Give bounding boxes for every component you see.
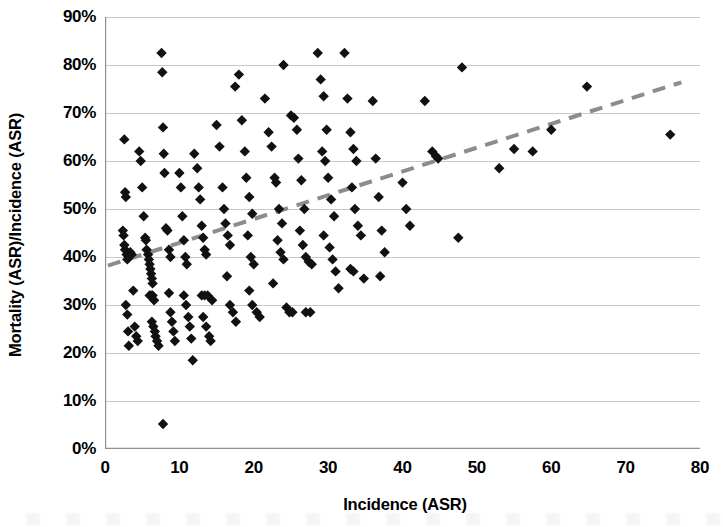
data-point-marker <box>177 211 187 221</box>
data-point-marker <box>222 271 232 281</box>
data-point-marker <box>277 218 287 228</box>
trendline <box>108 82 681 265</box>
plot-area <box>105 17 700 449</box>
data-point-marker <box>220 218 230 228</box>
gridlines <box>105 18 700 450</box>
axis-lines <box>105 17 700 449</box>
data-point-marker <box>342 93 352 103</box>
data-point-marker <box>230 81 240 91</box>
data-point-marker <box>317 146 327 156</box>
x-tick-label: 30 <box>303 458 353 478</box>
y-tick-label: 0% <box>34 439 96 459</box>
data-point-marker <box>453 233 463 243</box>
data-point-marker <box>219 204 229 214</box>
x-tick-label: 40 <box>378 458 428 478</box>
data-point-marker <box>244 285 254 295</box>
data-point-marker <box>240 146 250 156</box>
data-point-marker <box>225 240 235 250</box>
data-point-marker <box>122 309 132 319</box>
data-point-marker <box>329 211 339 221</box>
x-tick-label: 0 <box>80 458 130 478</box>
data-point-marker <box>327 254 337 264</box>
x-axis-title: Incidence (ASR) <box>105 495 705 514</box>
data-point-marker <box>179 290 189 300</box>
data-point-marker <box>494 163 504 173</box>
data-point-marker <box>350 204 360 214</box>
data-point-marker <box>181 300 191 310</box>
data-point-marker <box>278 60 288 70</box>
data-point-marker <box>186 333 196 343</box>
y-tick-label: 30% <box>34 295 96 315</box>
data-point-marker <box>159 149 169 159</box>
data-point-marker <box>546 125 556 135</box>
data-point-marker <box>183 312 193 322</box>
data-point-marker <box>351 156 361 166</box>
data-point-marker <box>368 96 378 106</box>
data-point-marker <box>167 317 177 327</box>
data-point-marker <box>375 271 385 281</box>
data-point-marker <box>174 168 184 178</box>
data-point-marker <box>211 120 221 130</box>
data-point-marker <box>292 125 302 135</box>
data-point-marker <box>223 230 233 240</box>
data-point-marker <box>194 182 204 192</box>
data-point-marker <box>374 192 384 202</box>
data-point-marker <box>359 273 369 283</box>
data-point-marker <box>371 153 381 163</box>
data-point-marker <box>241 173 251 183</box>
data-point-marker <box>509 144 519 154</box>
data-point-marker <box>137 182 147 192</box>
data-point-marker <box>170 336 180 346</box>
y-tick-label: 90% <box>34 7 96 27</box>
data-point-marker <box>243 230 253 240</box>
data-point-marker <box>164 288 174 298</box>
y-tick-label: 10% <box>34 391 96 411</box>
data-point-marker <box>397 177 407 187</box>
data-point-marker <box>158 419 168 429</box>
data-point-marker <box>128 285 138 295</box>
data-point-marker <box>266 141 276 151</box>
data-point-marker <box>527 146 537 156</box>
data-point-marker <box>313 48 323 58</box>
data-point-marker <box>295 225 305 235</box>
data-point-marker <box>260 93 270 103</box>
data-point-marker <box>347 182 357 192</box>
data-point-marker <box>293 153 303 163</box>
data-point-marker <box>156 48 166 58</box>
data-point-marker <box>121 300 131 310</box>
data-point-marker <box>231 317 241 327</box>
x-tick-label: 80 <box>675 458 723 478</box>
data-points <box>118 48 676 429</box>
y-tick-label: 80% <box>34 55 96 75</box>
data-point-marker <box>244 192 254 202</box>
data-point-marker <box>272 235 282 245</box>
data-point-marker <box>376 225 386 235</box>
y-tick-label: 60% <box>34 151 96 171</box>
data-point-marker <box>237 115 247 125</box>
data-point-marker <box>188 355 198 365</box>
data-point-marker <box>318 230 328 240</box>
y-tick-label: 50% <box>34 199 96 219</box>
plot-canvas <box>105 17 700 449</box>
data-point-marker <box>353 221 363 231</box>
x-tick-label: 60 <box>526 458 576 478</box>
data-point-marker <box>201 321 211 331</box>
data-point-marker <box>401 204 411 214</box>
data-point-marker <box>268 278 278 288</box>
data-point-marker <box>665 129 675 139</box>
data-point-marker <box>320 156 330 166</box>
data-point-marker <box>198 312 208 322</box>
data-point-marker <box>192 163 202 173</box>
x-tick-label: 20 <box>229 458 279 478</box>
y-tick-label: 70% <box>34 103 96 123</box>
x-tick-label: 70 <box>601 458 651 478</box>
data-point-marker <box>234 69 244 79</box>
data-point-marker <box>124 341 134 351</box>
data-point-marker <box>217 182 227 192</box>
data-point-marker <box>323 173 333 183</box>
data-point-marker <box>457 62 467 72</box>
data-point-marker <box>330 266 340 276</box>
data-point-marker <box>348 144 358 154</box>
data-point-marker <box>321 125 331 135</box>
data-point-marker <box>168 326 178 336</box>
